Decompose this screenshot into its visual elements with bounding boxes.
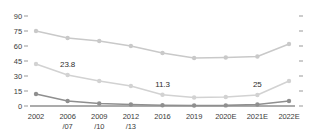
data-point-marker [224,55,228,59]
data-point-marker [255,93,259,97]
data-point-marker [224,95,228,99]
data-point-marker [287,99,291,103]
y-axis-tick-label: 15 [14,87,22,96]
data-point-marker [65,36,69,40]
data-point-marker [160,93,164,97]
x-axis-tick-label: 2020E [215,112,236,122]
y-axis-tick-label: 45 [14,57,22,66]
y-axis-tick-mark-right [299,46,303,47]
x-axis-tick-label: 2019 [186,112,202,122]
series-canvas [30,0,295,110]
data-point-marker [160,51,164,55]
data-label: 23.8 [60,60,75,69]
data-point-marker [34,29,38,33]
plot-area [30,0,295,110]
data-point-marker [160,103,164,107]
y-axis-tick-mark-right [299,16,303,17]
data-point-marker [192,56,196,60]
x-axis-tick-label: 2016 [154,112,170,122]
y-axis-tick-mark [24,91,28,92]
data-point-marker [129,44,133,48]
x-axis-tick-label: 2006/07 [59,112,75,131]
data-point-marker [192,95,196,99]
x-axis-tick-label: 2009/10 [91,112,107,131]
x-axis-tick-label: 2002 [28,112,44,122]
y-axis-tick-mark-right [299,91,303,92]
data-point-marker [97,79,101,83]
data-point-marker [65,99,69,103]
y-axis-tick-mark [24,76,28,77]
data-point-marker [255,54,259,58]
y-axis-tick-mark-right [299,76,303,77]
y-axis-tick-mark [24,16,28,17]
data-point-marker [34,62,38,66]
y-axis-tick-mark [24,31,28,32]
data-label: 25 [253,80,262,89]
y-axis-tick-mark [24,46,28,47]
data-point-marker [65,73,69,77]
y-axis-tick-mark-right [299,31,303,32]
y-axis-tick-mark-right [299,106,303,107]
y-axis-tick-label: 30 [14,72,22,81]
y-axis-tick-mark-right [299,61,303,62]
line-chart: 0153045607590 23.811.325 20022006/072009… [0,0,309,139]
x-axis-tick-label: 2012/13 [123,112,139,131]
data-point-marker [287,42,291,46]
x-axis: 20022006/072009/102012/13201620192020E20… [30,112,295,139]
data-point-marker [97,101,101,105]
y-axis-tick-mark [24,61,28,62]
y-axis: 0153045607590 [2,0,22,139]
data-point-marker [287,79,291,83]
y-axis-tick-label: 75 [14,27,22,36]
data-point-marker [97,39,101,43]
x-axis-tick-label: 2021E [247,112,268,122]
y-axis-tick-label: 90 [14,12,22,21]
y-axis-tick-label: 60 [14,42,22,51]
y-axis-tick-label: 0 [18,102,22,111]
series-1 [34,29,291,60]
y-axis-tick-mark [24,106,28,107]
data-point-marker [34,92,38,96]
x-axis-tick-label: 2022E [278,112,299,122]
data-label: 11.3 [155,80,170,89]
data-point-marker [129,84,133,88]
